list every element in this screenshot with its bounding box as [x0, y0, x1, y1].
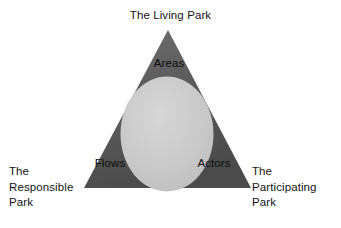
inner-label-areas: Areas	[139, 57, 199, 70]
vertex-label-living-park: The Living Park	[0, 8, 341, 24]
inner-label-actors: Actors	[184, 157, 244, 170]
diagram-canvas: The Living Park The Responsible Park The…	[0, 0, 341, 228]
inner-label-flows: Flows	[80, 157, 140, 170]
circle-shape	[121, 77, 214, 192]
vertex-label-responsible-park: The Responsible Park	[9, 164, 101, 211]
vertex-label-participating-park: The Participating Park	[252, 164, 341, 211]
